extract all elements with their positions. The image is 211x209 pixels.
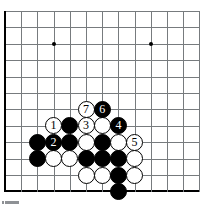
- stone-white-move-1[interactable]: 1: [45, 117, 62, 134]
- stone-white[interactable]: [94, 117, 111, 134]
- stone-black[interactable]: [29, 134, 46, 151]
- grid-line-vertical: [151, 11, 152, 192]
- move-number-label: 5: [132, 136, 138, 148]
- move-number-label: 4: [115, 119, 121, 131]
- stone-black[interactable]: [61, 134, 78, 151]
- stone-white[interactable]: [61, 150, 78, 167]
- stone-white-move-5[interactable]: 5: [126, 134, 143, 151]
- stone-white[interactable]: [78, 167, 95, 184]
- grid-line-vertical: [21, 11, 22, 192]
- star-point: [149, 42, 153, 46]
- stone-white[interactable]: [94, 167, 111, 184]
- grid-line-vertical: [199, 11, 200, 192]
- stone-black[interactable]: [61, 117, 78, 134]
- stone-black[interactable]: [78, 150, 95, 167]
- stone-white-move-3[interactable]: 3: [78, 117, 95, 134]
- stone-white[interactable]: [78, 134, 95, 151]
- grid-line-vertical: [183, 11, 184, 192]
- move-number-label: 1: [51, 119, 57, 131]
- stone-black[interactable]: [94, 150, 111, 167]
- move-number-label: 3: [83, 119, 89, 131]
- grid-line-vertical: [167, 11, 168, 192]
- move-number-label: 6: [99, 103, 105, 115]
- stone-white-move-7[interactable]: 7: [78, 101, 95, 118]
- stone-black-move-6[interactable]: 6: [94, 101, 111, 118]
- stone-black[interactable]: [29, 150, 46, 167]
- stone-white[interactable]: [110, 134, 127, 151]
- stone-black[interactable]: [110, 150, 127, 167]
- stone-white[interactable]: [126, 150, 143, 167]
- stone-black[interactable]: [94, 134, 111, 151]
- caption-fragment-dot: [2, 201, 4, 204]
- stone-white[interactable]: [126, 167, 143, 184]
- go-diagram-figure: 7613425: [0, 0, 211, 209]
- star-point: [52, 42, 56, 46]
- board-edge-left: [4, 11, 6, 192]
- stone-black-move-2[interactable]: 2: [45, 134, 62, 151]
- move-number-label: 7: [83, 103, 89, 115]
- stone-black[interactable]: [110, 183, 127, 200]
- caption-fragment-bar: [5, 201, 19, 204]
- go-board[interactable]: 7613425: [0, 0, 211, 209]
- stone-black-move-4[interactable]: 4: [110, 117, 127, 134]
- stone-white[interactable]: [45, 150, 62, 167]
- move-number-label: 2: [51, 136, 57, 148]
- stone-black[interactable]: [110, 167, 127, 184]
